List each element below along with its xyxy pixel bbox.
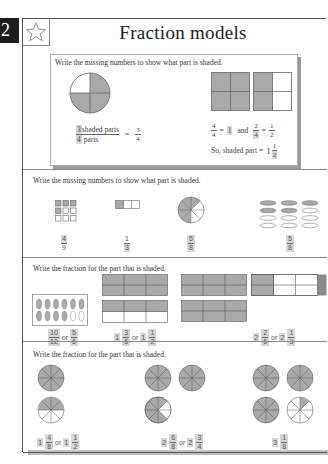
example-square-models [211,72,293,112]
section-write-fraction-1: Write the fraction for the part that is … [23,257,327,343]
answer-box: 2 [272,151,278,159]
bar-models-2-third [181,274,327,326]
bar-model [115,200,140,209]
circle-caption: 3shaded parts 4 parts = 34 [76,125,141,144]
star-icon [25,21,47,43]
circle-eighths-model [177,196,205,224]
section-write-fraction-2: Write the fraction for the part that is … [23,341,327,453]
page-title: Fraction models [83,22,283,44]
ovals-box-model [32,294,88,326]
example-instruction: Write the missing numbers to show what p… [55,58,223,67]
ovals-model [259,200,319,230]
circle-models-1-half [37,364,65,424]
circle-models-2-three-quarters [144,364,206,424]
section-missing-numbers: Write the missing numbers to show what p… [23,169,327,257]
example-circle-model [69,72,111,114]
star-box [23,19,50,46]
circle-models-3-eighth [252,364,314,424]
squares-caption-line1: 44 = 1 and 24 = 12 [211,122,275,139]
answer-box: 4 [253,131,259,139]
section2-instruction: Write the fraction for the part that is … [33,264,166,273]
answer-5-8-ovals: 58 [286,235,294,252]
answer-2-6-8: 2 68 or 2 34 [161,434,203,451]
worksheet: Fraction models Write the missing number… [22,18,326,452]
answer-1-3: 13 [124,235,130,252]
answer-box: 4 [76,135,82,144]
squares-caption-line2: So, shaded part = 1 12 [211,142,277,159]
section3-instruction: Write the fraction for the part that is … [33,350,166,359]
page-number: 2 [0,18,19,43]
squares-grid-model [55,200,77,222]
section1-instruction: Write the missing numbers to show what p… [33,176,201,185]
answer-5-8-circle: 58 [187,235,195,252]
example-box: Write the missing numbers to show what p… [50,54,298,166]
bar-models-1-half [102,274,168,326]
answer-1-4-8: 1 48 or 1 12 [37,434,79,451]
answer-3-1-8: 3 18 [272,434,288,451]
answer-box: 1 [227,126,233,135]
answer-4-9: 49 [61,235,67,252]
